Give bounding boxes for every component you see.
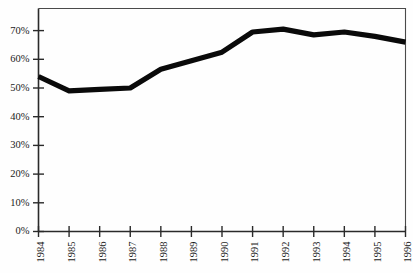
x-axis-tick-label: 1985 (66, 242, 77, 263)
x-axis-tick-label: 1984 (35, 241, 46, 263)
chart-container: 0%10%20%30%40%50%60%70% 1984198519861987… (0, 0, 413, 273)
y-axis-tick-label: 0% (16, 225, 30, 236)
y-axis-tick-label: 20% (10, 168, 30, 179)
x-axis-tick-label: 1995 (372, 242, 383, 263)
x-axis-tick-label: 1990 (219, 242, 230, 263)
y-axis-tick-label: 50% (10, 82, 30, 93)
y-axis-tick-label: 40% (10, 111, 30, 122)
x-axis-tick-label: 1987 (127, 242, 138, 263)
x-axis-tick-label: 1991 (249, 242, 260, 263)
y-axis-tick-label: 10% (10, 197, 30, 208)
x-axis-tick-label: 1996 (402, 242, 413, 263)
line-chart: 0%10%20%30%40%50%60%70% 1984198519861987… (0, 0, 413, 273)
x-axis-tick-label: 1994 (341, 241, 352, 263)
x-axis-tick-label: 1988 (158, 242, 169, 263)
x-axis-tick-label: 1993 (311, 242, 322, 263)
y-axis-tick-label: 70% (10, 25, 30, 36)
x-axis-tick-label: 1986 (97, 242, 108, 263)
x-axis-tick-label: 1992 (280, 242, 291, 263)
y-axis-tick-label: 60% (10, 53, 30, 64)
x-axis-tick-label: 1989 (188, 242, 199, 263)
y-axis-tick-label: 30% (10, 139, 30, 150)
